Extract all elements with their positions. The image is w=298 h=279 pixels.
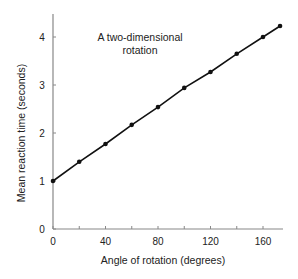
x-tick-label: 80: [152, 236, 164, 247]
data-point-marker: [156, 105, 161, 110]
data-point-marker: [234, 52, 239, 57]
data-point-marker: [103, 142, 108, 147]
series-line: [53, 26, 280, 181]
data-point-marker: [77, 160, 82, 165]
x-tick-label: 0: [50, 236, 56, 247]
y-tick-label: 3: [39, 80, 45, 91]
data-series: [51, 24, 283, 184]
data-point-marker: [261, 35, 266, 40]
reaction-time-chart: 01234 04080120160 A two-dimensional rota…: [0, 0, 298, 279]
x-axis-label: Angle of rotation (degrees): [101, 254, 225, 266]
data-point-marker: [208, 70, 213, 75]
y-tick-label: 2: [39, 128, 45, 139]
x-tick-label: 40: [100, 236, 112, 247]
x-tick-label: 120: [202, 236, 219, 247]
y-tick-label: 1: [39, 176, 45, 187]
annotation-line-2: rotation: [122, 44, 157, 56]
y-tick-label: 4: [39, 32, 45, 43]
data-point-marker: [129, 123, 134, 128]
annotation-line-1: A two-dimensional: [97, 31, 182, 43]
data-point-marker: [182, 86, 187, 91]
data-point-marker: [51, 179, 56, 184]
y-axis-label: Mean reaction time (seconds): [15, 64, 27, 202]
data-point-marker: [278, 24, 283, 29]
y-tick-label: 0: [39, 224, 45, 235]
x-tick-label: 160: [255, 236, 272, 247]
